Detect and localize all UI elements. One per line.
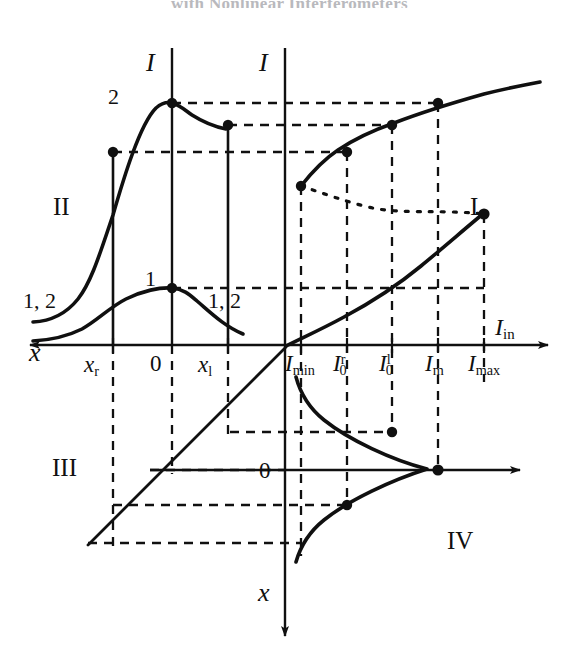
tick-label-x-l-sub: l xyxy=(208,363,212,379)
tick-label-x-r: xr xyxy=(84,353,99,376)
curves-12-right-label: 1, 2 xyxy=(208,290,241,312)
marker-I-upper-2 xyxy=(387,120,397,130)
axis-label-I-in-base: I xyxy=(495,314,503,340)
tick-label-I-m-base: I xyxy=(425,351,433,376)
curve-quadrant-I-lower xyxy=(286,213,484,346)
quadrant-label-II: II xyxy=(53,194,70,219)
tick-label-I-0-r-sub: 0 xyxy=(339,362,346,378)
quadrant-label-I: I xyxy=(470,194,478,219)
bistability-four-quadrant-diagram xyxy=(0,0,579,658)
curve-quadrant-III-line xyxy=(88,347,286,545)
tick-label-I-m: Im xyxy=(425,352,444,375)
tick-label-zero-lower: 0 xyxy=(259,459,271,482)
tick-label-x-l: xl xyxy=(198,353,212,376)
tick-label-I-0-l: Il0 xyxy=(379,352,393,375)
tick-label-I-max-base: I xyxy=(468,351,476,376)
tick-label-I-max: Imax xyxy=(468,352,500,375)
tick-label-I-0-l-sub: 0 xyxy=(386,362,393,378)
curve-quadrant-I-upper xyxy=(301,82,540,186)
axis-label-I-in: Iin xyxy=(495,315,515,339)
quadrant-label-III: III xyxy=(52,455,77,480)
marker-IV-upper xyxy=(387,427,397,437)
curve-2-label: 2 xyxy=(108,86,119,108)
axis-label-I-in-sub: in xyxy=(503,326,515,342)
marker-I-upper-1 xyxy=(342,147,352,157)
tick-label-I-0-r: Ir0 xyxy=(333,352,347,375)
marker-II-peak-1 xyxy=(167,283,177,293)
curves-12-left-label: 1, 2 xyxy=(23,290,56,312)
axis-label-x-bottom: x xyxy=(258,580,270,606)
marker-II-peak-2 xyxy=(167,98,177,108)
marker-I-upper-3 xyxy=(433,98,443,108)
marker-I-turning-point xyxy=(478,208,489,219)
marker-I-knee-lower xyxy=(296,181,306,191)
tick-label-x-l-base: x xyxy=(198,352,208,377)
curve-1-label: 1 xyxy=(145,268,156,290)
quadrant-label-IV: IV xyxy=(447,528,473,553)
tick-label-I-min-base: I xyxy=(285,351,293,376)
tick-label-x-r-base: x xyxy=(84,352,94,377)
tick-label-I-max-sub: max xyxy=(476,362,501,378)
marker-II-left-shoulder xyxy=(108,147,118,157)
marker-dots xyxy=(108,98,490,510)
tick-label-I-m-sub: m xyxy=(433,362,444,378)
marker-IV-lower xyxy=(342,500,352,510)
marker-II-right-shoulder xyxy=(223,120,233,130)
axis-label-x-left: x xyxy=(29,340,41,366)
axis-label-I-upper-right: I xyxy=(259,50,268,76)
tick-label-zero-top: 0 xyxy=(150,352,162,375)
marker-IV-vertex xyxy=(432,464,443,475)
tick-label-I-min-sub: min xyxy=(293,362,315,378)
tick-label-I-min: Imin xyxy=(285,352,315,375)
tick-label-x-r-sub: r xyxy=(94,363,99,379)
axis-label-I-upper-left: I xyxy=(146,50,155,76)
